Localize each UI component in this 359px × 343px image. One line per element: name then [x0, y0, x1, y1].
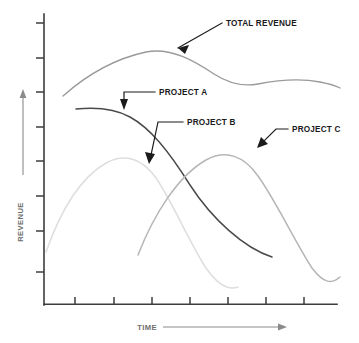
annotation-label-project-c: PROJECT C [292, 125, 341, 134]
curve-project-a [76, 108, 272, 257]
x-axis-label: TIME [137, 323, 157, 332]
x-axis-ticks [75, 297, 304, 304]
y-axis-label: REVENUE [16, 202, 25, 242]
curve-project-c [138, 155, 340, 282]
arrowhead-project-b [145, 152, 155, 164]
arrowhead-total-revenue [178, 45, 189, 54]
y-axis-label-group: REVENUE [16, 89, 26, 242]
annotation-label-project-a: PROJECT A [159, 88, 207, 97]
annotation-total-revenue: TOTAL REVENUE [178, 19, 297, 54]
curve-project-b [46, 158, 238, 288]
y-axis-arrowhead-icon [20, 89, 27, 98]
annotation-label-project-b: PROJECT B [187, 118, 236, 127]
y-axis-ticks [36, 23, 44, 272]
chart-container: TOTAL REVENUE PROJECT A PROJECT B PROJEC… [0, 0, 359, 343]
annotation-label-total-revenue: TOTAL REVENUE [226, 19, 297, 28]
x-axis-label-group: TIME [137, 323, 287, 332]
revenue-over-time-chart: TOTAL REVENUE PROJECT A PROJECT B PROJEC… [0, 0, 359, 343]
annotation-project-a: PROJECT A [120, 88, 207, 110]
arrowhead-project-a [120, 99, 128, 110]
x-axis-arrowhead-icon [278, 324, 287, 331]
annotation-project-c: PROJECT C [257, 125, 341, 148]
